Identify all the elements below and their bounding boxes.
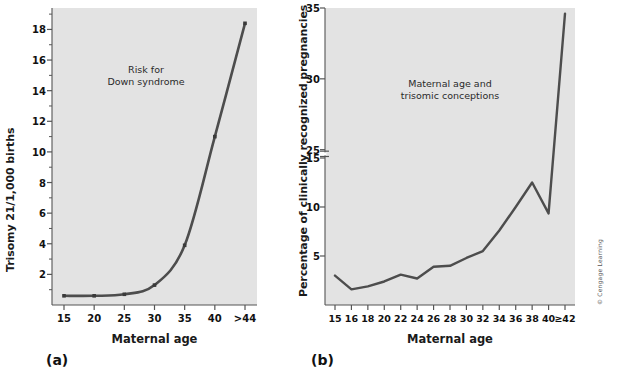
copyright-credit: © Cengage Learning bbox=[596, 239, 603, 305]
panel-a-x-tick-label: 15 bbox=[57, 313, 71, 324]
panel-a-annotation-line1: Risk for bbox=[86, 64, 206, 76]
panel-b-annotation-line2: trisomic conceptions bbox=[370, 90, 530, 102]
panel-a-y-tick-label: 18 bbox=[26, 24, 46, 35]
panel-a-x-tick-label: 35 bbox=[178, 313, 192, 324]
panel-b-annotation-line1: Maternal age and bbox=[370, 78, 530, 90]
panel-b-x-tick-label: 18 bbox=[361, 313, 374, 324]
chart-panel-a: Trisomy 21/1,000 births 24681012141618 1… bbox=[0, 0, 309, 371]
panel-a-x-tick-label: 25 bbox=[117, 313, 131, 324]
panel-a-annotation: Risk for Down syndrome bbox=[86, 64, 206, 88]
panel-a-plot bbox=[0, 0, 309, 330]
panel-a-y-tick-label: 12 bbox=[26, 116, 46, 127]
panel-a-x-tick-label: 40 bbox=[208, 313, 222, 324]
panel-a-y-tick-label: 8 bbox=[26, 177, 46, 188]
panel-b-x-tick-label: ≥42 bbox=[554, 313, 575, 324]
panel-b-y-tick-label: 10 bbox=[295, 201, 320, 212]
panel-a-y-tick-label: 16 bbox=[26, 55, 46, 66]
panel-a-annotation-line2: Down syndrome bbox=[86, 76, 206, 88]
panel-a-x-axis-title: Maternal age bbox=[52, 332, 257, 346]
panel-b-x-axis-title: Maternal age bbox=[325, 332, 575, 346]
panel-b-letter: (b) bbox=[311, 352, 334, 368]
panel-a-y-tick-label: 2 bbox=[26, 269, 46, 280]
panel-a-x-tick-label: 30 bbox=[148, 313, 162, 324]
panel-b-x-tick-label: 20 bbox=[378, 313, 391, 324]
panel-b-x-tick-label: 22 bbox=[394, 313, 407, 324]
panel-a-y-tick-label: 6 bbox=[26, 208, 46, 219]
panel-b-plot-background bbox=[325, 8, 575, 305]
panel-b-y-tick-label: 35 bbox=[295, 3, 320, 14]
panel-b-plot bbox=[295, 0, 618, 330]
panel-b-x-tick-label: 38 bbox=[526, 313, 539, 324]
panel-b-y-ticks bbox=[320, 8, 325, 256]
panel-b-x-tick-label: 40 bbox=[542, 313, 555, 324]
panel-b-x-tick-label: 28 bbox=[443, 313, 456, 324]
panel-a-x-ticks bbox=[64, 305, 245, 310]
panel-b-x-tick-label: 26 bbox=[427, 313, 440, 324]
panel-a-y-tick-label: 10 bbox=[26, 146, 46, 157]
panel-a-plot-background bbox=[52, 8, 257, 305]
panel-a-y-ticks bbox=[47, 14, 52, 290]
panel-b-y-tick-label: 30 bbox=[295, 73, 320, 84]
figure-root: Trisomy 21/1,000 births 24681012141618 1… bbox=[0, 0, 618, 371]
panel-a-letter: (a) bbox=[46, 352, 68, 368]
panel-b-x-tick-label: 30 bbox=[460, 313, 473, 324]
panel-a-x-tick-label: 20 bbox=[87, 313, 101, 324]
panel-b-x-tick-label: 34 bbox=[493, 313, 506, 324]
panel-b-x-tick-label: 24 bbox=[411, 313, 424, 324]
panel-b-y-tick-label: 5 bbox=[295, 250, 320, 261]
panel-a-x-tick-label: >44 bbox=[234, 313, 256, 324]
chart-panel-b: Percentage of clinically recognized preg… bbox=[295, 0, 618, 371]
panel-b-annotation: Maternal age and trisomic conceptions bbox=[370, 78, 530, 102]
panel-b-y-tick-label: 25 bbox=[295, 144, 320, 155]
panel-b-x-tick-label: 36 bbox=[509, 313, 522, 324]
panel-b-x-ticks bbox=[335, 305, 565, 310]
panel-b-x-tick-label: 16 bbox=[345, 313, 358, 324]
panel-a-y-tick-label: 14 bbox=[26, 85, 46, 96]
panel-a-y-tick-label: 4 bbox=[26, 238, 46, 249]
panel-b-x-tick-label: 32 bbox=[476, 313, 489, 324]
panel-b-x-tick-label: 15 bbox=[328, 313, 341, 324]
